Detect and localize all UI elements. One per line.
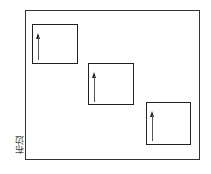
pattern-piece-2	[88, 63, 134, 105]
pattern-piece-1	[32, 24, 78, 64]
selvage-label: 布边	[13, 130, 25, 160]
grain-arrow-icon	[36, 33, 42, 60]
pattern-piece-3	[146, 102, 191, 145]
grain-arrow-icon	[150, 111, 156, 141]
grain-arrow-icon	[92, 72, 98, 102]
